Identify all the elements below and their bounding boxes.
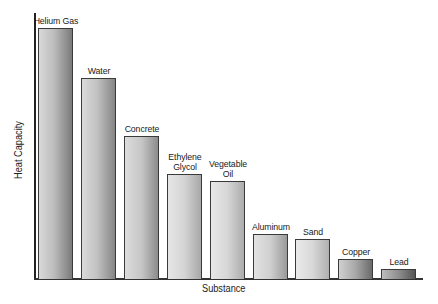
bar-label-water: Water [66, 66, 130, 76]
bar-lead [381, 269, 416, 279]
bar-label-helium-gas: Helium Gas [23, 16, 87, 26]
bar-water [81, 78, 116, 279]
y-axis-line [34, 13, 36, 280]
bar-sand [295, 239, 330, 279]
bar-label-copper: Copper [323, 247, 387, 257]
bar-aluminum [253, 234, 288, 279]
heat-capacity-bar-chart: Helium GasWaterConcreteEthylene GlycolVe… [0, 0, 438, 304]
bar-label-concrete: Concrete [109, 124, 173, 134]
bar-ethylene-glycol [167, 174, 202, 279]
bar-label-lead: Lead [366, 257, 430, 267]
bar-label-vegetable-oil: Vegetable Oil [195, 159, 259, 179]
x-axis-label: Substance [202, 283, 245, 294]
y-axis-label: Heat Capacity [13, 121, 24, 179]
bar-label-sand: Sand [280, 227, 344, 237]
